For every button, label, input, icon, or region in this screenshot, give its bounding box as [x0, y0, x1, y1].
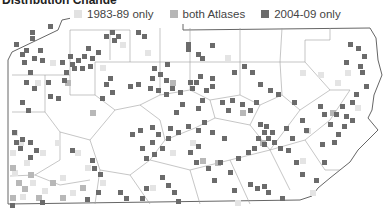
legend-label: 2004-09 only: [274, 8, 341, 20]
legend-item-1983-89-only: 1983-89 only: [74, 8, 154, 20]
legend-swatch-light: [74, 10, 82, 18]
state-outline: [8, 10, 382, 204]
legend-item-both-atlases: both Atlases: [170, 8, 246, 20]
distribution-map: [0, 0, 390, 217]
legend-swatch-dark: [261, 10, 269, 18]
legend: 1983-89 only both Atlases 2004-09 only: [70, 4, 345, 24]
legend-label: 1983-89 only: [87, 8, 154, 20]
legend-item-2004-09-only: 2004-09 only: [261, 8, 341, 20]
legend-label: both Atlases: [183, 8, 246, 20]
legend-swatch-medium: [170, 10, 178, 18]
